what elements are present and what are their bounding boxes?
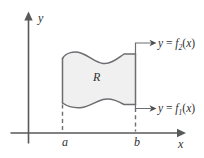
tick-label-b: b (134, 136, 140, 148)
upper-label-y: y (158, 37, 163, 49)
lower-label-subscript: 1 (179, 108, 183, 117)
lower-label-y: y (158, 102, 163, 114)
lower-label-equals: = (166, 102, 173, 114)
lower-curve-label: y = f1(x) (158, 103, 195, 115)
region-label: R (93, 71, 100, 83)
tick-label-a: a (62, 136, 68, 148)
x-axis-label: x (178, 138, 183, 150)
upper-label-paren-close: ) (191, 37, 195, 49)
x-axis-arrowhead-icon (177, 129, 186, 137)
y-axis-label: y (38, 12, 43, 24)
lower-label-paren-close: ) (191, 102, 195, 114)
lower-leader-line (136, 105, 152, 109)
upper-leader-line (136, 43, 152, 54)
upper-label-subscript: 2 (179, 43, 183, 52)
upper-label-equals: = (166, 37, 173, 49)
y-axis-arrowhead-icon (24, 12, 32, 21)
figure-canvas: y x a b R y = f2(x) y = f1(x) (0, 0, 204, 158)
diagram-svg (0, 0, 204, 158)
upper-curve-label: y = f2(x) (158, 38, 195, 50)
